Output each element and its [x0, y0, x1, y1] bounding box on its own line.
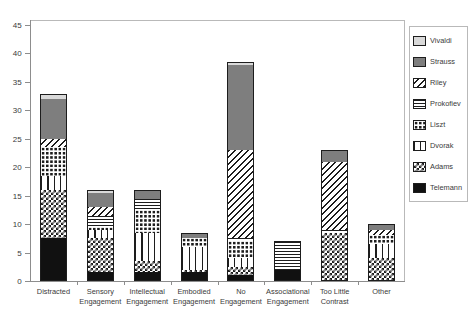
bar-segment-telemann[interactable]: [181, 272, 208, 281]
y-axis-tick: [25, 224, 30, 225]
legend-item-vivaldi[interactable]: Vivaldi: [413, 30, 465, 51]
bar-segment-riley[interactable]: [87, 207, 114, 216]
bar-segment-liszt[interactable]: [181, 238, 208, 247]
y-axis-tick-label: 15: [0, 191, 22, 200]
bar-segment-prokofiev[interactable]: [134, 199, 161, 210]
legend-item-dvorak[interactable]: Dvorak: [413, 135, 465, 156]
legend-swatch-icon: [413, 36, 426, 46]
bar-segment-adams[interactable]: [40, 190, 67, 238]
y-axis-tick: [25, 281, 30, 282]
bar-segment-adams[interactable]: [134, 261, 161, 272]
bar-segment-riley[interactable]: [40, 139, 67, 148]
bar-segment-strauss[interactable]: [87, 193, 114, 207]
bar-stack[interactable]: [134, 190, 161, 281]
legend-swatch-icon: [413, 162, 426, 172]
bar-segment-strauss[interactable]: [227, 65, 254, 150]
bar-segment-dvorak[interactable]: [134, 233, 161, 261]
bar-segment-adams[interactable]: [87, 238, 114, 272]
chart-root: 051015202530354045 DistractedSensoryEnga…: [0, 0, 469, 314]
x-axis-category-line: Contrast: [307, 297, 363, 307]
bar-segment-liszt[interactable]: [368, 235, 395, 244]
y-axis-tick: [25, 167, 30, 168]
legend-swatch-icon: [413, 141, 426, 151]
y-axis-tick: [25, 196, 30, 197]
legend-swatch-icon: [413, 78, 426, 88]
bar-segment-telemann[interactable]: [227, 275, 254, 281]
bar-segment-telemann[interactable]: [40, 238, 67, 281]
bar-segment-dvorak[interactable]: [181, 247, 208, 270]
x-axis-tick: [264, 281, 265, 285]
bar-segment-liszt[interactable]: [40, 147, 67, 175]
legend-item-label: Adams: [430, 162, 453, 171]
x-axis-tick: [124, 281, 125, 285]
bar-segment-telemann[interactable]: [134, 272, 161, 281]
legend-swatch-icon: [413, 183, 426, 193]
legend-swatch-icon: [413, 57, 426, 67]
legend-item-label: Riley: [430, 78, 446, 87]
legend-item-label: Liszt: [430, 120, 445, 129]
legend-item-label: Strauss: [430, 57, 455, 66]
legend-item-label: Prokofiev: [430, 99, 461, 108]
bar-stack[interactable]: [368, 224, 395, 281]
y-axis-tick: [25, 25, 30, 26]
bar-segment-dvorak[interactable]: [40, 176, 67, 190]
y-axis-tick-label: 45: [0, 21, 22, 30]
bar-segment-liszt[interactable]: [227, 241, 254, 258]
x-axis-tick: [358, 281, 359, 285]
bar-segment-prokofiev[interactable]: [274, 241, 301, 269]
bar-segment-adams[interactable]: [321, 233, 348, 281]
legend-item-label: Dvorak: [430, 141, 453, 150]
legend: VivaldiStraussRileyProkofievLisztDvorakA…: [409, 26, 468, 202]
bar-segment-adams[interactable]: [227, 267, 254, 276]
x-axis-tick: [77, 281, 78, 285]
bar-stack[interactable]: [227, 62, 254, 281]
bar-segment-riley[interactable]: [227, 150, 254, 238]
y-axis-tick-label: 35: [0, 77, 22, 86]
x-axis-tick: [311, 281, 312, 285]
bar-segment-adams[interactable]: [368, 258, 395, 281]
bar-stack[interactable]: [321, 150, 348, 281]
legend-swatch-icon: [413, 99, 426, 109]
y-axis-tick-label: 40: [0, 49, 22, 58]
legend-item-strauss[interactable]: Strauss: [413, 51, 465, 72]
bar-stack[interactable]: [40, 94, 67, 281]
y-axis-tick-label: 20: [0, 163, 22, 172]
y-axis-tick-label: 0: [0, 277, 22, 286]
bar-segment-prokofiev[interactable]: [87, 216, 114, 227]
y-axis-tick: [25, 82, 30, 83]
bar-segment-telemann[interactable]: [87, 272, 114, 281]
legend-item-label: Vivaldi: [430, 36, 452, 45]
bar-stack[interactable]: [181, 233, 208, 281]
y-axis-tick: [25, 53, 30, 54]
legend-swatch-icon: [413, 120, 426, 130]
bar-segment-strauss[interactable]: [321, 150, 348, 161]
legend-item-telemann[interactable]: Telemann: [413, 177, 465, 198]
bar-segment-strauss[interactable]: [134, 190, 161, 199]
legend-item-liszt[interactable]: Liszt: [413, 114, 465, 135]
bar-stack[interactable]: [274, 241, 301, 281]
y-axis-tick-label: 10: [0, 220, 22, 229]
y-axis-tick-label: 5: [0, 248, 22, 257]
x-axis-tick: [171, 281, 172, 285]
bar-segment-telemann[interactable]: [274, 270, 301, 281]
y-axis-tick: [25, 110, 30, 111]
x-axis-tick: [218, 281, 219, 285]
x-axis-category-line: Other: [354, 287, 410, 297]
y-axis-tick: [25, 139, 30, 140]
legend-item-riley[interactable]: Riley: [413, 72, 465, 93]
legend-item-prokofiev[interactable]: Prokofiev: [413, 93, 465, 114]
legend-item-label: Telemann: [430, 183, 462, 192]
bar-stack[interactable]: [87, 190, 114, 281]
y-axis: [30, 20, 31, 282]
bar-segment-strauss[interactable]: [40, 99, 67, 139]
bar-segment-liszt[interactable]: [134, 210, 161, 233]
y-axis-tick-label: 30: [0, 106, 22, 115]
y-axis-tick-label: 25: [0, 134, 22, 143]
legend-item-adams[interactable]: Adams: [413, 156, 465, 177]
bar-segment-dvorak[interactable]: [227, 258, 254, 267]
bar-segment-riley[interactable]: [321, 162, 348, 230]
bar-segment-dvorak[interactable]: [368, 244, 395, 258]
bar-segment-dvorak[interactable]: [87, 230, 114, 239]
x-axis-category-label: Other: [354, 287, 410, 297]
y-axis-tick: [25, 253, 30, 254]
